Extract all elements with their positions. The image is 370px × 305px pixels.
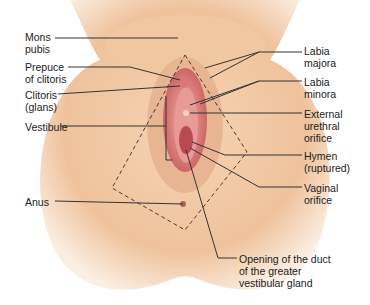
label-vestibule: Vestibule	[25, 121, 68, 133]
label-external-urethral-orifice: External urethral orifice	[304, 108, 343, 144]
clitoris-shape	[179, 76, 189, 88]
urethral-orifice-shape	[183, 110, 189, 116]
label-hymen: Hymen (ruptured)	[304, 150, 350, 174]
label-vaginal-orifice: Vaginal orifice	[304, 182, 338, 206]
label-clitoris-glans: Clitoris (glans)	[25, 89, 57, 113]
label-prepuce-of-clitoris: Prepuce of clitoris	[25, 61, 66, 85]
label-labia-minora: Labia minora	[304, 76, 336, 100]
label-anus: Anus	[25, 196, 49, 208]
vaginal-orifice-shape	[179, 126, 193, 154]
anatomy-diagram: Mons pubis Prepuce of clitoris Clitoris …	[0, 0, 370, 305]
label-vestibular-gland-duct: Opening of the duct of the greater vesti…	[239, 253, 331, 289]
label-mons-pubis: Mons pubis	[25, 31, 51, 55]
label-labia-majora: Labia majora	[304, 45, 336, 69]
